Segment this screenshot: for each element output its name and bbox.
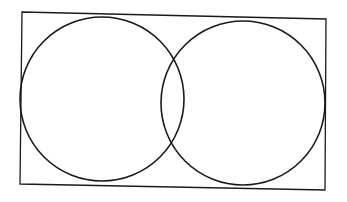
- universe-rectangle: [20, 12, 326, 190]
- left-set-circle: [20, 17, 184, 181]
- right-set-circle: [161, 21, 325, 185]
- venn-diagram: [0, 0, 347, 202]
